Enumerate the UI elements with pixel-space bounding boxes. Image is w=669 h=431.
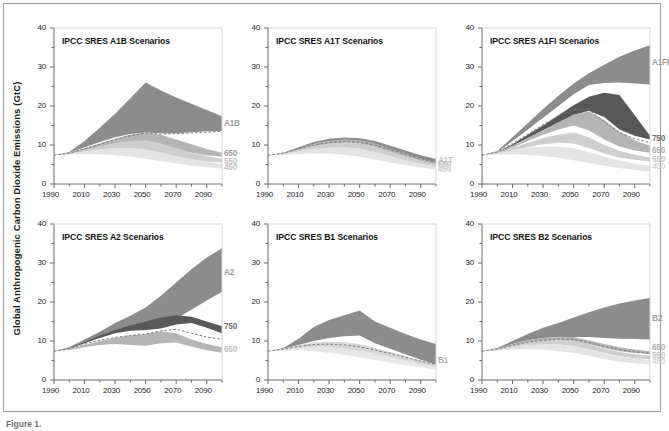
scenario-label-450: 450 (652, 162, 665, 171)
panel-title: IPCC SRES A1FI Scenarios (490, 36, 599, 46)
scenario-label-a2: A2 (224, 268, 234, 277)
y-tick-label: 0 (244, 179, 260, 188)
y-tick-label: 40 (458, 219, 474, 228)
panel-title: IPCC SRES A1T Scenarios (276, 36, 383, 46)
scenario-label-a1fi: A1FI (652, 58, 669, 67)
x-tick-label: 2070 (592, 386, 609, 395)
x-tick-label: 2050 (134, 190, 151, 199)
y-tick-label: 0 (458, 179, 474, 188)
y-tick-label: 20 (30, 101, 46, 110)
x-tick-label: 2050 (562, 190, 579, 199)
scenario-label-b1: B1 (438, 356, 448, 365)
x-tick-label: 2070 (378, 190, 395, 199)
x-tick-label: 2010 (501, 386, 518, 395)
x-tick-label: 1990 (470, 386, 487, 395)
scenario-label-450: 450 (224, 163, 237, 172)
band-b1-0 (268, 311, 436, 365)
y-axis-label-text: Global Anthropogenic Carbon Dioxide Emis… (12, 82, 23, 336)
x-tick-label: 2090 (409, 386, 426, 395)
panel-title: IPCC SRES A2 Scenarios (62, 232, 164, 242)
x-tick-label: 2070 (164, 190, 181, 199)
y-tick-label: 30 (244, 62, 260, 71)
x-tick-label: 2030 (317, 386, 334, 395)
y-tick-label: 10 (458, 336, 474, 345)
y-tick-label: 0 (30, 179, 46, 188)
x-tick-label: 2090 (623, 190, 640, 199)
x-tick-label: 1990 (42, 386, 59, 395)
panel-a2: IPCC SRES A2 Scenarios010203040199020102… (26, 210, 240, 406)
y-tick-label: 20 (458, 297, 474, 306)
y-tick-label: 30 (30, 62, 46, 71)
y-tick-label: 10 (244, 140, 260, 149)
x-tick-label: 2090 (195, 386, 212, 395)
y-tick-label: 10 (30, 140, 46, 149)
x-tick-label: 1990 (256, 386, 273, 395)
x-tick-label: 2010 (73, 190, 90, 199)
panel-title: IPCC SRES B1 Scenarios (276, 232, 378, 242)
x-tick-label: 2050 (134, 386, 151, 395)
x-tick-label: 2010 (287, 190, 304, 199)
scenario-label-750: 750 (224, 322, 237, 331)
y-tick-label: 40 (458, 23, 474, 32)
x-tick-label: 2030 (531, 190, 548, 199)
scenario-label-b2: B2 (652, 314, 662, 323)
panel-b1: IPCC SRES B1 Scenarios010203040199020102… (240, 210, 454, 406)
y-tick-label: 40 (244, 23, 260, 32)
x-tick-label: 2070 (164, 386, 181, 395)
y-tick-label: 10 (244, 336, 260, 345)
x-tick-label: 2030 (317, 190, 334, 199)
y-tick-label: 20 (458, 101, 474, 110)
panel-title: IPCC SRES A1B Scenarios (62, 36, 170, 46)
y-tick-label: 40 (30, 219, 46, 228)
figure-caption: Figure 1. (6, 419, 206, 430)
x-tick-label: 2030 (531, 386, 548, 395)
scenario-label-750: 750 (652, 134, 665, 143)
scenario-label-450: 450 (438, 165, 451, 174)
x-tick-label: 2090 (623, 386, 640, 395)
y-tick-label: 10 (30, 336, 46, 345)
scenario-label-450: 450 (652, 357, 665, 366)
x-tick-label: 2030 (103, 386, 120, 395)
x-tick-label: 2070 (378, 386, 395, 395)
x-tick-label: 1990 (470, 190, 487, 199)
x-tick-label: 1990 (256, 190, 273, 199)
y-tick-label: 30 (244, 258, 260, 267)
y-tick-label: 0 (30, 375, 46, 384)
x-tick-label: 2050 (348, 386, 365, 395)
y-tick-label: 30 (458, 62, 474, 71)
y-tick-label: 10 (458, 140, 474, 149)
y-tick-label: 40 (30, 23, 46, 32)
x-tick-label: 2050 (348, 190, 365, 199)
y-tick-label: 0 (458, 375, 474, 384)
y-tick-label: 40 (244, 219, 260, 228)
panel-grid: IPCC SRES A1B Scenarios01020304019902010… (26, 8, 668, 412)
x-tick-label: 1990 (42, 190, 59, 199)
y-tick-label: 0 (244, 375, 260, 384)
x-tick-label: 2070 (592, 190, 609, 199)
x-tick-label: 2030 (103, 190, 120, 199)
y-tick-label: 30 (458, 258, 474, 267)
panel-a1fi: IPCC SRES A1FI Scenarios0102030401990201… (454, 14, 668, 210)
y-tick-label: 20 (30, 297, 46, 306)
scenario-label-a1b: A1B (224, 119, 240, 128)
x-tick-label: 2010 (287, 386, 304, 395)
x-tick-label: 2050 (562, 386, 579, 395)
panel-b2: IPCC SRES B2 Scenarios010203040199020102… (454, 210, 668, 406)
x-tick-label: 2090 (409, 190, 426, 199)
x-tick-label: 2010 (501, 190, 518, 199)
panel-a1t: IPCC SRES A1T Scenarios01020304019902010… (240, 14, 454, 210)
scenario-label-650: 650 (224, 345, 237, 354)
y-tick-label: 20 (244, 101, 260, 110)
panel-a1b: IPCC SRES A1B Scenarios01020304019902010… (26, 14, 240, 210)
y-axis-label: Global Anthropogenic Carbon Dioxide Emis… (8, 4, 26, 413)
figure-frame: Global Anthropogenic Carbon Dioxide Emis… (3, 3, 661, 412)
panel-title: IPCC SRES B2 Scenarios (490, 232, 592, 242)
x-tick-label: 2090 (195, 190, 212, 199)
y-tick-label: 30 (30, 258, 46, 267)
x-tick-label: 2010 (73, 386, 90, 395)
y-tick-label: 20 (244, 297, 260, 306)
